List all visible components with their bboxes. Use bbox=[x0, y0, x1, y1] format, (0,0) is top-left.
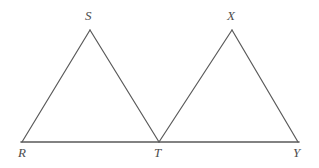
vertex-label-T: T bbox=[154, 146, 161, 159]
segment-TX bbox=[159, 30, 232, 142]
segment-XY bbox=[232, 30, 298, 142]
segment-RS bbox=[22, 30, 90, 142]
vertex-label-Y: Y bbox=[293, 146, 300, 159]
vertex-label-R: R bbox=[18, 146, 26, 159]
figure-canvas bbox=[0, 0, 319, 168]
vertex-label-S: S bbox=[85, 9, 92, 22]
segment-ST bbox=[90, 30, 159, 142]
geometry-figure: S X R T Y bbox=[0, 0, 319, 168]
vertex-label-X: X bbox=[227, 9, 235, 22]
